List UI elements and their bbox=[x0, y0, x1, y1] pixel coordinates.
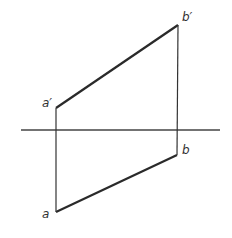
front-projection-line-ab-prime bbox=[56, 25, 178, 108]
label-a: a bbox=[42, 207, 49, 221]
label-b: b bbox=[182, 143, 190, 157]
projector-line-b bbox=[177, 25, 178, 155]
projection-diagram: b′ a′ b a bbox=[0, 0, 232, 238]
label-b-prime: b′ bbox=[182, 10, 193, 24]
top-projection-line-ab bbox=[56, 155, 177, 212]
label-a-prime: a′ bbox=[42, 96, 52, 110]
